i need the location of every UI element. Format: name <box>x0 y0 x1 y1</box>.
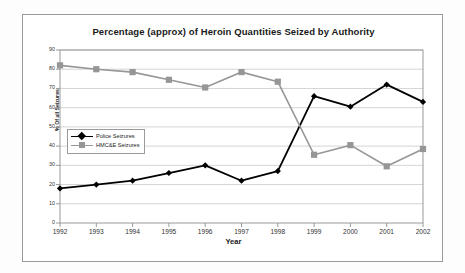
data-point <box>420 99 426 105</box>
data-point <box>311 152 317 158</box>
legend-label: HMC&E Seizures <box>96 142 140 148</box>
data-point <box>57 185 63 191</box>
square-marker-icon <box>71 141 93 150</box>
data-point <box>275 79 281 85</box>
data-point <box>420 146 426 152</box>
data-point <box>238 178 244 184</box>
data-point <box>166 77 172 83</box>
data-point <box>275 168 281 174</box>
data-point <box>238 69 244 75</box>
data-point <box>57 62 63 68</box>
data-point <box>93 66 99 72</box>
data-point <box>130 69 136 75</box>
data-point <box>347 142 353 148</box>
plot-area-wrapper: % Of all Seizures 0102030405060708090 19… <box>23 15 444 263</box>
legend-label: Police Seizures <box>96 133 135 139</box>
chart-screenshot: Percentage (approx) of Heroin Quantities… <box>0 0 465 273</box>
data-point <box>311 93 317 99</box>
x-axis-title: Year <box>23 237 444 246</box>
data-point <box>93 181 99 187</box>
legend-item[interactable]: Police Seizures <box>71 132 140 141</box>
chart-frame: Percentage (approx) of Heroin Quantities… <box>22 14 443 262</box>
chart-legend: Police SeizuresHMC&E Seizures <box>67 129 145 154</box>
legend-item[interactable]: HMC&E Seizures <box>71 141 140 150</box>
data-point <box>384 163 390 169</box>
data-point <box>202 84 208 90</box>
data-point <box>166 170 172 176</box>
diamond-marker-icon <box>71 132 93 141</box>
data-point <box>202 162 208 168</box>
data-point <box>130 178 136 184</box>
